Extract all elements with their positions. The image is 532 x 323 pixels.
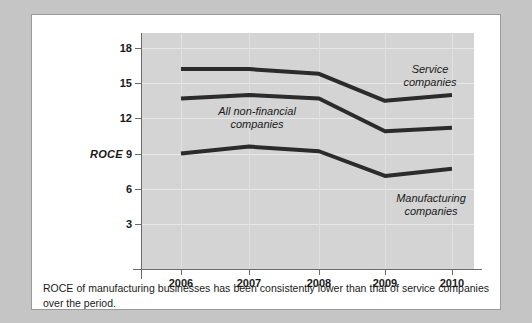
annotation-all-non-financial-companies: All non-financial companies xyxy=(202,105,312,131)
annotation-service-companies: Service companies xyxy=(387,63,473,89)
chart-area: 18 15 12 9 6 3 ROCE xyxy=(32,15,500,279)
series-line-manufacturing-companies xyxy=(181,147,452,176)
annotation-manufacturing-line-1: Manufacturing xyxy=(377,192,485,205)
figure-card: 18 15 12 9 6 3 ROCE xyxy=(31,14,501,310)
screenshot-root: 18 15 12 9 6 3 ROCE xyxy=(0,0,532,323)
figure-caption: ROCE of manufacturing businesses has bee… xyxy=(43,281,489,311)
annotation-service-line-1: Service xyxy=(387,63,473,76)
series-lines-svg xyxy=(32,15,500,279)
annotation-allnonfin-line-1: All non-financial xyxy=(202,105,312,118)
annotation-service-line-2: companies xyxy=(387,76,473,89)
annotation-manufacturing-companies: Manufacturing companies xyxy=(377,192,485,218)
annotation-allnonfin-line-2: companies xyxy=(202,118,312,131)
annotation-manufacturing-line-2: companies xyxy=(377,205,485,218)
